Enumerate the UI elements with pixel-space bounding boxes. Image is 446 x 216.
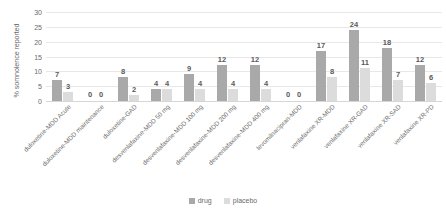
bar-value-label: 2 [132, 85, 136, 94]
x-axis-label-text: duloxetine-MDD maintenance [40, 103, 104, 167]
x-axis-label-text: desvenlafaxine-MDD 50 mg [110, 103, 171, 164]
somnolence-bar-chart: % somnolence reported 302520151050 73008… [0, 0, 446, 216]
y-tick-label-30: 30 [34, 9, 42, 16]
y-tick-label-5: 5 [38, 83, 42, 90]
legend-item-placebo[interactable]: placebo [224, 197, 258, 204]
y-tick-label-25: 25 [34, 23, 42, 30]
bar-value-label: 9 [187, 64, 191, 73]
y-tick-label-0: 0 [38, 98, 42, 105]
bar-value-label: 4 [231, 79, 235, 88]
y-axis-tick-labels: 302520151050 [20, 12, 42, 101]
y-tick-label-10: 10 [34, 68, 42, 75]
chart-legend: drugplacebo [0, 197, 446, 204]
legend-swatch-icon [224, 198, 230, 204]
bar-value-label: 12 [416, 55, 424, 64]
x-axis-label-text: duloxetine-GAD [101, 103, 138, 140]
bar-value-label: 0 [99, 90, 103, 99]
bar-value-label: 3 [66, 82, 70, 91]
x-axis-label-text: desvenlafaxine-MDD 100 mg [140, 103, 203, 166]
bar-group: 73 [46, 12, 79, 101]
bar-drug[interactable] [52, 80, 62, 101]
bar-value-label: 0 [297, 90, 301, 99]
legend-swatch-icon [189, 198, 195, 204]
y-tick-label-20: 20 [34, 38, 42, 45]
bar-value-label: 4 [264, 79, 268, 88]
x-axis-label-text: desvenlafaxine-MDD 200 mg [173, 103, 236, 166]
bar-value-label: 8 [121, 67, 125, 76]
bar-value-label: 4 [198, 79, 202, 88]
x-axis-category-labels: duloxetine-MDD Acuteduloxetine-MDD maint… [46, 101, 442, 187]
bar-value-label: 18 [383, 38, 391, 47]
bar-value-label: 24 [350, 20, 358, 29]
legend-item-drug[interactable]: drug [189, 197, 212, 204]
x-axis-label-text: desvenlafaxine-MDD 400 mg [206, 103, 269, 166]
y-tick-label-15: 15 [34, 53, 42, 60]
legend-label: drug [198, 197, 212, 204]
bar-value-label: 7 [55, 70, 59, 79]
bar-value-label: 4 [165, 79, 169, 88]
legend-label: placebo [233, 197, 258, 204]
